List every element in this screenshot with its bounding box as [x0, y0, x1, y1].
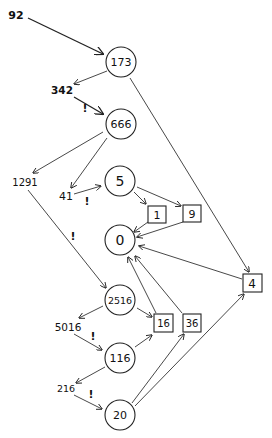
- edge-2516-16: [137, 308, 152, 317]
- edge-41-5: [74, 186, 101, 194]
- node-2516: 2516: [105, 285, 135, 315]
- box-9-label: 9: [189, 208, 196, 221]
- label-216: 216: [57, 383, 75, 394]
- node-0-label: 0: [116, 232, 125, 248]
- node-20: 20: [105, 400, 135, 430]
- exclamation-mark: !: [88, 388, 93, 401]
- box-9: 9: [183, 205, 201, 222]
- node-173-label: 173: [111, 56, 132, 69]
- box-16-label: 16: [157, 318, 170, 329]
- edge-666-1291: [33, 132, 103, 173]
- node-173: 173: [106, 47, 136, 77]
- box-4-label: 4: [248, 277, 256, 291]
- edge-5016-116: [74, 334, 102, 350]
- label-92: 92: [8, 9, 23, 22]
- node-0: 0: [105, 225, 135, 255]
- box-16: 16: [154, 314, 173, 332]
- exclamation-mark: !: [70, 230, 75, 243]
- box-36: 36: [183, 314, 201, 332]
- edges: [28, 18, 249, 409]
- edge-173-342: [74, 71, 107, 84]
- label-1291: 1291: [12, 177, 37, 188]
- edge-4-0: [139, 246, 242, 279]
- node-666-label: 666: [111, 118, 132, 131]
- edge-116-16: [135, 335, 152, 347]
- number-graph-diagram: 173 666 5 0 2516 116 20 1 9 4 16: [0, 0, 272, 438]
- edge-342-666: [74, 97, 103, 114]
- edge-20-36: [132, 334, 184, 403]
- node-5-label: 5: [116, 173, 125, 189]
- node-5: 5: [105, 166, 135, 196]
- label-342: 342: [51, 84, 73, 96]
- edge-5-9: [137, 187, 181, 206]
- edge-20-4: [135, 294, 244, 406]
- edge-1291-2516: [28, 190, 106, 288]
- edge-116-216: [76, 367, 105, 383]
- box-1: 1: [148, 206, 166, 223]
- label-5016: 5016: [55, 321, 82, 333]
- edge-666-41: [71, 138, 107, 188]
- node-2516-label: 2516: [108, 295, 132, 306]
- exclamation-mark: !: [84, 195, 89, 208]
- node-666: 666: [106, 109, 136, 139]
- edge-9-0: [137, 222, 183, 237]
- edge-92-173: [28, 18, 103, 54]
- box-1-label: 1: [154, 209, 161, 222]
- edge-5-1: [134, 192, 146, 204]
- box-36-label: 36: [186, 318, 199, 329]
- node-116-label: 116: [110, 352, 131, 365]
- exclamation-mark: !: [82, 102, 87, 115]
- edge-1-0: [134, 222, 148, 232]
- node-20-label: 20: [113, 409, 127, 422]
- node-116: 116: [105, 343, 135, 373]
- exclamation-mark: !: [90, 330, 95, 343]
- box-4: 4: [243, 274, 262, 292]
- edge-173-4: [130, 78, 249, 272]
- label-41: 41: [59, 190, 73, 203]
- edge-2516-5016: [79, 306, 103, 318]
